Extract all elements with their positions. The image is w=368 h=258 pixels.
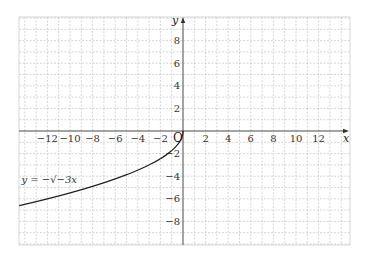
axes (19, 17, 349, 245)
y-tick-label: 8 (174, 35, 180, 46)
x-tick-label: 12 (312, 133, 325, 144)
x-tick-label: 4 (225, 133, 231, 144)
x-axis-label: x (343, 132, 350, 145)
y-tick-label: 6 (174, 58, 180, 69)
x-tick-label: −2 (153, 133, 168, 144)
function-graph: −12−10−8−6−4−2246810128642−2−4−6−8 y = −… (0, 0, 368, 258)
x-tick-label: 8 (270, 133, 276, 144)
y-tick-label: −6 (165, 193, 180, 204)
x-tick-label: 2 (202, 133, 208, 144)
origin-label: O (173, 131, 183, 145)
y-axis-label: y (171, 14, 179, 27)
y-tick-label: −8 (165, 216, 180, 227)
x-tick-label: 6 (248, 133, 254, 144)
x-tick-label: −12 (37, 133, 58, 144)
y-tick-label: −4 (165, 171, 180, 182)
x-tick-label: −10 (59, 133, 80, 144)
equation-label: y = −√−3x (20, 174, 77, 185)
x-tick-label: −4 (130, 133, 145, 144)
x-tick-label: −8 (85, 133, 100, 144)
x-tick-label: 10 (290, 133, 303, 144)
y-tick-label: 2 (174, 103, 180, 114)
x-tick-label: −6 (108, 133, 123, 144)
y-tick-label: 4 (174, 80, 180, 91)
